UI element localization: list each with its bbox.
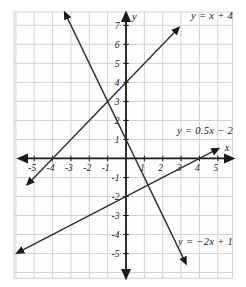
x-tick-label: -5 (28, 163, 36, 173)
y-tick-label: 5 (115, 59, 120, 69)
y-tick-label: -4 (112, 230, 120, 240)
x-tick-label: -2 (83, 163, 91, 173)
x-tick-label: -3 (65, 163, 73, 173)
y-tick-label: -5 (112, 249, 120, 259)
y-axis-label: y (131, 11, 137, 22)
equation-label-line3: y = −2x + 1 (178, 236, 233, 247)
x-tick-label: 5 (213, 163, 218, 173)
x-tick-label: -1 (102, 163, 110, 173)
x-axis-label: x (224, 142, 230, 153)
y-tick-label: 1 (115, 135, 120, 145)
y-tick-label: -1 (112, 173, 120, 183)
equation-label-line1: y = x + 4 (191, 10, 233, 21)
y-tick-label: 4 (115, 78, 120, 88)
y-tick-label: 3 (114, 97, 120, 107)
y-tick-label: 6 (115, 40, 120, 50)
x-tick-label: 2 (158, 163, 163, 173)
linear-equations-graph: -5-4-3-2-112345-5-4-3-2-11234567xy y = x… (0, 0, 246, 287)
x-tick-label: 4 (195, 163, 200, 173)
equation-label-line2: y = 0.5x − 2 (177, 125, 233, 136)
y-tick-label: -3 (112, 211, 120, 221)
x-tick-label: -4 (47, 163, 55, 173)
